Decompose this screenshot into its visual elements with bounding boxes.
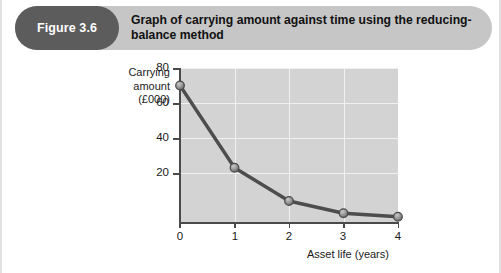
figure-title: Graph of carrying amount against time us… <box>131 6 481 50</box>
figure-number-label: Figure 3.6 <box>37 21 97 35</box>
data-point-marker-4 <box>394 212 403 221</box>
figure-header-bar: Figure 3.6 Graph of carrying amount agai… <box>15 6 492 50</box>
data-point-marker-3 <box>339 209 348 218</box>
data-point-marker-0 <box>176 81 185 90</box>
figure-number-badge: Figure 3.6 <box>15 6 119 50</box>
series-markers <box>176 81 403 221</box>
figure-card: Figure 3.6 Graph of carrying amount agai… <box>0 0 501 273</box>
data-point-marker-1 <box>230 163 239 172</box>
chart-region: Carrying amount (£000) 80 60 40 20 0 1 <box>2 52 501 273</box>
data-point-marker-2 <box>285 197 294 206</box>
series-layer <box>2 52 501 273</box>
